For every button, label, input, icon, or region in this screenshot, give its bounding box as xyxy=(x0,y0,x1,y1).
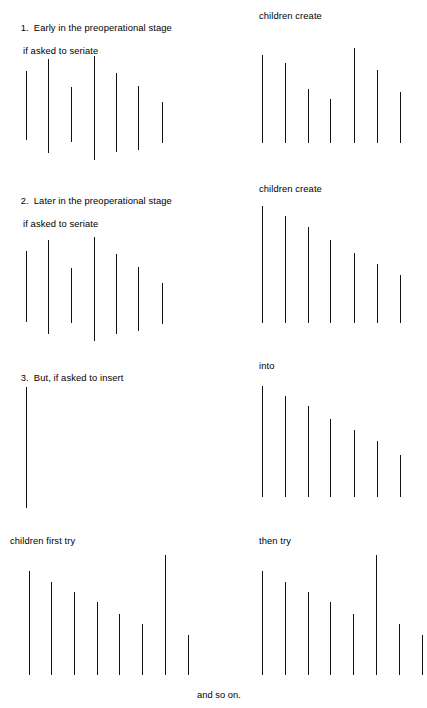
section-4-prompt-left: children first try xyxy=(10,535,75,547)
stick xyxy=(142,624,143,675)
stick xyxy=(97,602,98,675)
stick xyxy=(308,227,309,323)
stick xyxy=(285,396,286,497)
footer-note: and so on. xyxy=(197,689,241,700)
stick xyxy=(377,70,378,143)
stick xyxy=(354,253,355,323)
stick xyxy=(285,582,286,675)
section-2-prompt-line1: Later in the preoperational stage xyxy=(34,195,172,206)
stick xyxy=(48,59,49,153)
stick xyxy=(377,264,378,323)
section-3-response-label: into xyxy=(259,360,275,372)
stick xyxy=(330,602,331,675)
stick-inserted xyxy=(376,555,377,675)
section-2-response-label: children create xyxy=(259,183,322,195)
stick xyxy=(400,92,401,143)
stick xyxy=(138,86,139,150)
stick xyxy=(262,386,263,497)
stick xyxy=(116,73,117,152)
stick xyxy=(29,571,30,675)
stick xyxy=(48,240,49,334)
stick xyxy=(94,237,95,341)
stick xyxy=(116,254,117,334)
stick xyxy=(285,216,286,323)
stick-inserted xyxy=(165,555,166,675)
stick xyxy=(285,63,286,143)
section-1-prompt-line2: if asked to seriate xyxy=(10,45,172,57)
stick xyxy=(400,455,401,497)
stick xyxy=(138,267,139,331)
stick xyxy=(26,251,27,322)
section-1-prompt-line1: Early in the preoperational stage xyxy=(34,22,172,33)
stick xyxy=(354,48,355,143)
stick xyxy=(353,614,354,675)
stick xyxy=(308,592,309,675)
stick xyxy=(94,56,95,160)
stick xyxy=(188,635,189,675)
stick xyxy=(74,592,75,675)
stick xyxy=(262,206,263,323)
stick xyxy=(71,268,72,323)
stick xyxy=(399,624,400,675)
stick xyxy=(262,55,263,143)
section-1-response-label: children create xyxy=(259,10,322,22)
section-2-prompt: 2.Later in the preoperational stage if a… xyxy=(10,183,172,253)
figure-canvas: 1.Early in the preoperational stage if a… xyxy=(0,0,427,708)
stick xyxy=(422,635,423,675)
stick xyxy=(308,406,309,497)
stick xyxy=(119,614,120,675)
section-3-number: 3. xyxy=(21,372,34,384)
stick xyxy=(330,99,331,143)
stick xyxy=(162,283,163,324)
section-2-number: 2. xyxy=(21,195,34,207)
section-3-prompt-line1: But, if asked to insert xyxy=(34,372,124,383)
stick xyxy=(400,275,401,323)
stick xyxy=(377,441,378,497)
stick xyxy=(354,430,355,497)
section-4-response-label: then try xyxy=(259,535,291,547)
stick xyxy=(262,571,263,675)
stick xyxy=(330,240,331,323)
stick xyxy=(162,102,163,143)
stick xyxy=(51,582,52,675)
stick xyxy=(308,89,309,143)
section-2-prompt-line2: if asked to seriate xyxy=(10,218,172,230)
section-1-prompt: 1.Early in the preoperational stage if a… xyxy=(10,10,172,80)
stick xyxy=(26,71,27,140)
section-1-number: 1. xyxy=(21,22,34,34)
stick-to-insert xyxy=(26,387,27,508)
stick xyxy=(330,419,331,497)
stick xyxy=(71,87,72,142)
